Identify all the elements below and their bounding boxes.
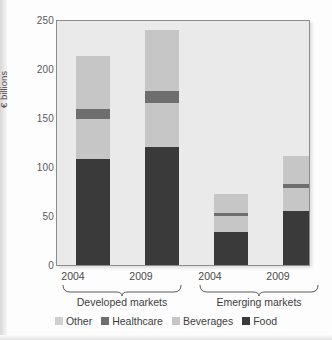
bar-developed-2004	[76, 56, 110, 265]
brace-developed	[62, 285, 182, 295]
bar-emerging-2009	[283, 156, 310, 265]
y-tick-200: 200	[14, 64, 54, 75]
legend-swatch-beverages-icon	[172, 317, 180, 325]
x-tick-emerging-2004: 2004	[180, 270, 240, 282]
bar-developed-2009	[145, 30, 179, 265]
y-tick-250: 250	[14, 15, 54, 26]
y-tick-150: 150	[14, 113, 54, 124]
x-tick-developed-2004: 2004	[43, 270, 103, 282]
x-tick-emerging-2009: 2009	[248, 270, 308, 282]
y-axis-label: € billions	[0, 71, 9, 108]
chart-legend: OtherHealthcareBeveragesFood	[0, 315, 332, 327]
bar-segment-food-developed-2004	[76, 159, 110, 265]
legend-swatch-healthcare-icon	[101, 317, 109, 325]
bar-segment-beverages-emerging-2004	[214, 216, 248, 232]
bars-container	[57, 21, 309, 265]
legend-item-beverages[interactable]: Beverages	[172, 315, 233, 327]
bar-segment-food-emerging-2009	[283, 211, 310, 265]
legend-label: Food	[253, 315, 277, 327]
bar-segment-other-developed-2004	[76, 56, 110, 108]
bar-segment-healthcare-developed-2009	[145, 91, 179, 103]
plot-area	[56, 20, 310, 266]
legend-label: Other	[66, 315, 92, 327]
bar-segment-food-emerging-2004	[214, 232, 248, 265]
legend-item-food[interactable]: Food	[242, 315, 277, 327]
brace-emerging	[199, 285, 319, 295]
legend-swatch-other-icon	[55, 317, 63, 325]
bar-segment-food-developed-2009	[145, 147, 179, 265]
bar-segment-beverages-developed-2004	[76, 119, 110, 158]
bar-segment-other-emerging-2009	[283, 156, 310, 185]
bar-segment-healthcare-developed-2004	[76, 109, 110, 120]
bar-segment-other-developed-2009	[145, 30, 179, 91]
bar-segment-beverages-emerging-2009	[283, 188, 310, 211]
bar-segment-healthcare-emerging-2004	[214, 213, 248, 216]
x-tick-developed-2009: 2009	[111, 270, 171, 282]
bar-segment-beverages-developed-2009	[145, 103, 179, 147]
legend-swatch-food-icon	[242, 317, 250, 325]
legend-item-healthcare[interactable]: Healthcare	[101, 315, 163, 327]
bar-segment-healthcare-emerging-2009	[283, 184, 310, 188]
y-tick-50: 50	[14, 211, 54, 222]
y-tick-100: 100	[14, 162, 54, 173]
group-label-emerging: Emerging markets	[194, 296, 324, 308]
bar-segment-other-emerging-2004	[214, 194, 248, 213]
legend-label: Beverages	[183, 315, 233, 327]
legend-label: Healthcare	[112, 315, 163, 327]
legend-item-other[interactable]: Other	[55, 315, 92, 327]
bar-emerging-2004	[214, 194, 248, 265]
group-label-developed: Developed markets	[57, 296, 187, 308]
stacked-bar-chart: € billions 250 200 150 100 50 0 2004 200…	[0, 0, 332, 340]
